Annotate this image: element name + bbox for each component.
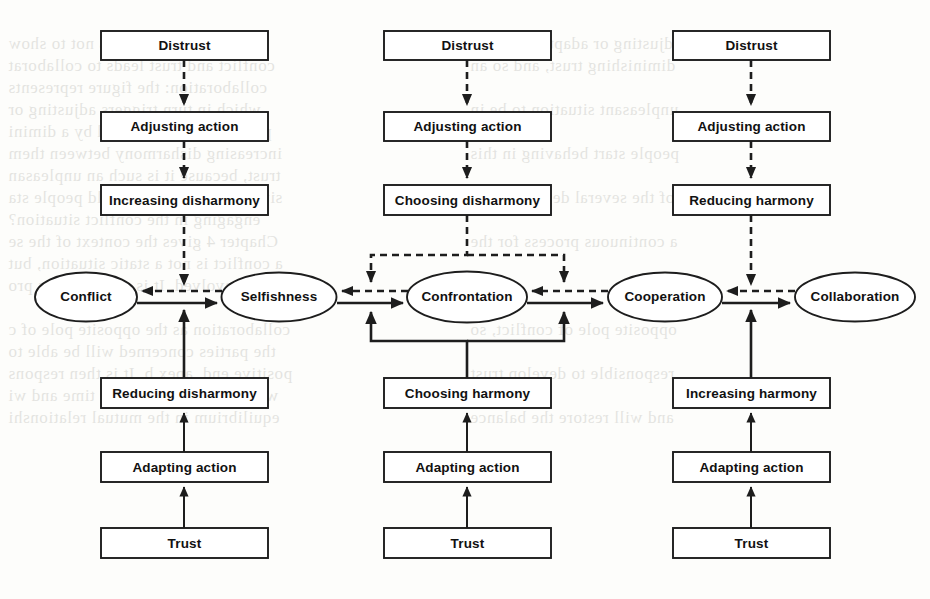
box-middle-adjusting-action[interactable]: Adjusting action <box>384 112 551 141</box>
box-right-adapting-action-label: Adapting action <box>699 460 803 475</box>
box-middle-choosing-harmony[interactable]: Choosing harmony <box>384 378 551 408</box>
box-middle-adjusting-action-label: Adjusting action <box>413 119 521 134</box>
box-right-increasing-harmony-label: Increasing harmony <box>686 386 817 401</box>
box-middle-adapting-action-label: Adapting action <box>415 460 519 475</box>
state-confrontation[interactable]: Confrontation <box>407 272 527 323</box>
box-middle-choosing-disharmony[interactable]: Choosing disharmony <box>384 185 551 215</box>
box-middle-choosing-harmony-label: Choosing harmony <box>405 386 531 401</box>
state-conflict[interactable]: Conflict <box>35 273 137 322</box>
box-right-reducing-harmony-label: Reducing harmony <box>689 193 814 208</box>
state-conflict-label: Conflict <box>60 289 112 304</box>
box-right-distrust-label: Distrust <box>725 38 778 53</box>
state-cooperation[interactable]: Cooperation <box>608 273 722 322</box>
box-left-adapting-action[interactable]: Adapting action <box>101 452 268 482</box>
box-right-adapting-action[interactable]: Adapting action <box>673 452 830 482</box>
box-left-increasing-disharmony[interactable]: Increasing disharmony <box>101 185 268 215</box>
state-collaboration[interactable]: Collaboration <box>795 273 915 322</box>
box-right-reducing-harmony[interactable]: Reducing harmony <box>673 185 830 215</box>
box-left-distrust-label: Distrust <box>158 38 211 53</box>
box-right-adjusting-action[interactable]: Adjusting action <box>673 112 830 141</box>
box-right-distrust[interactable]: Distrust <box>673 31 830 60</box>
state-selfishness-label: Selfishness <box>241 289 318 304</box>
box-right-trust-label: Trust <box>735 536 769 551</box>
box-right-adjusting-action-label: Adjusting action <box>697 119 805 134</box>
box-middle-choosing-disharmony-label: Choosing disharmony <box>395 193 541 208</box>
state-collaboration-label: Collaboration <box>811 289 900 304</box>
box-left-adapting-action-label: Adapting action <box>132 460 236 475</box>
box-right-trust[interactable]: Trust <box>673 528 830 558</box>
state-confrontation-label: Confrontation <box>421 289 512 304</box>
box-right-increasing-harmony[interactable]: Increasing harmony <box>673 378 830 408</box>
state-cooperation-label: Cooperation <box>624 289 705 304</box>
box-left-trust[interactable]: Trust <box>101 528 268 558</box>
box-middle-distrust-label: Distrust <box>441 38 494 53</box>
diagram-canvas: is diagram. The plan is not to showconfl… <box>0 0 930 599</box>
box-left-reducing-disharmony-label: Reducing disharmony <box>112 386 257 401</box>
state-selfishness[interactable]: Selfishness <box>222 273 337 322</box>
box-middle-adapting-action[interactable]: Adapting action <box>384 452 551 482</box>
box-middle-trust-label: Trust <box>451 536 485 551</box>
box-left-reducing-disharmony[interactable]: Reducing disharmony <box>101 378 268 408</box>
flow-diagram: Distrust Adjusting action Increasing dis… <box>0 0 930 599</box>
box-left-trust-label: Trust <box>168 536 202 551</box>
box-left-adjusting-action-label: Adjusting action <box>130 119 238 134</box>
box-middle-trust[interactable]: Trust <box>384 528 551 558</box>
box-middle-distrust[interactable]: Distrust <box>384 31 551 60</box>
box-left-adjusting-action[interactable]: Adjusting action <box>101 112 268 141</box>
box-left-increasing-disharmony-label: Increasing disharmony <box>109 193 260 208</box>
box-left-distrust[interactable]: Distrust <box>101 31 268 60</box>
